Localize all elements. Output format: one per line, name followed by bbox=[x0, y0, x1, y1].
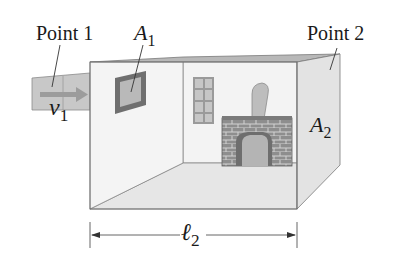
point1-label: Point 1 bbox=[36, 22, 93, 45]
v1-subscript: 1 bbox=[60, 106, 69, 125]
a2-symbol: A bbox=[310, 112, 323, 137]
a1-label: A1 bbox=[134, 20, 155, 50]
a2-label: A2 bbox=[310, 112, 331, 142]
a1-symbol: A bbox=[134, 20, 147, 45]
l2-subscript: 2 bbox=[191, 231, 200, 250]
back-window bbox=[193, 77, 214, 124]
arrowhead-left-icon bbox=[91, 232, 100, 238]
point2-label: Point 2 bbox=[307, 22, 364, 45]
a1-subscript: 1 bbox=[147, 32, 155, 49]
fireplace bbox=[222, 116, 292, 166]
l2-symbol: ℓ bbox=[181, 219, 191, 245]
arrowhead-right-icon bbox=[287, 232, 296, 238]
v1-symbol: v bbox=[49, 94, 60, 120]
l2-label: ℓ2 bbox=[181, 219, 200, 251]
v1-label: v1 bbox=[49, 94, 68, 126]
a2-subscript: 2 bbox=[323, 124, 331, 141]
